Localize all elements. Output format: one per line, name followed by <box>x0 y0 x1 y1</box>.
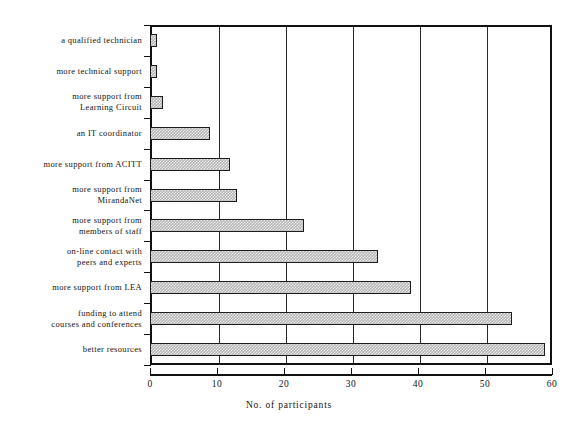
y-axis-label: more technical support <box>0 66 142 77</box>
y-axis-label-line: courses and conferences <box>0 319 142 330</box>
y-axis-labels: a qualified technicianmore technical sup… <box>0 25 146 365</box>
bar-row <box>150 120 210 146</box>
bar <box>150 281 411 294</box>
y-axis-label: more support frommembers of staff <box>0 215 142 237</box>
y-axis-tick <box>144 334 151 335</box>
x-axis-title: No. of participants <box>0 400 578 410</box>
bar-row <box>150 58 157 84</box>
bar <box>150 219 304 232</box>
y-axis-tick <box>144 241 151 242</box>
x-axis-tick <box>418 368 419 375</box>
bar <box>150 34 157 47</box>
y-axis-tick <box>144 56 151 57</box>
bar <box>150 65 157 78</box>
x-axis-tick <box>552 368 553 375</box>
y-axis-tick <box>144 149 151 150</box>
y-axis-tick <box>144 25 151 26</box>
y-axis-label: funding to attendcourses and conferences <box>0 308 142 330</box>
y-axis-label-line: more support from <box>0 184 142 195</box>
bar <box>150 189 237 202</box>
y-axis-label: more support from LEA <box>0 282 142 293</box>
bar <box>150 343 545 356</box>
bar-row <box>150 151 230 177</box>
y-axis-tick <box>144 210 151 211</box>
bar <box>150 250 378 263</box>
y-axis-tick <box>144 180 151 181</box>
y-axis-label-line: Learning Circuit <box>0 102 142 113</box>
bar <box>150 158 230 171</box>
y-axis-label: more support fromLearning Circuit <box>0 91 142 113</box>
x-axis-tick <box>217 368 218 375</box>
y-axis-label-line: more support from LEA <box>0 282 142 293</box>
y-axis-label-line: funding to attend <box>0 308 142 319</box>
y-axis-tick <box>144 303 151 304</box>
bar-chart: a qualified technicianmore technical sup… <box>0 0 578 432</box>
x-axis-tick-label: 50 <box>480 379 490 389</box>
y-axis-label: a qualified technician <box>0 35 142 46</box>
y-axis-tick <box>144 272 151 273</box>
y-axis-label-line: an IT coordinator <box>0 128 142 139</box>
bar <box>150 127 210 140</box>
y-axis-tick <box>144 365 151 366</box>
bar <box>150 96 163 109</box>
bar-row <box>150 27 157 53</box>
bar-row <box>150 182 237 208</box>
x-axis-tick-label: 40 <box>413 379 423 389</box>
x-axis-tick-label: 20 <box>279 379 289 389</box>
bar-row <box>150 275 411 301</box>
x-axis-tick-label: 30 <box>346 379 356 389</box>
x-axis-tick <box>150 368 151 375</box>
bar-row <box>150 306 512 332</box>
y-axis-label-line: better resources <box>0 344 142 355</box>
y-axis-label: more support fromMirandaNet <box>0 184 142 206</box>
y-axis-tick <box>144 118 151 119</box>
y-axis-label: better resources <box>0 344 142 355</box>
bar-row <box>150 89 163 115</box>
x-axis-tick-label: 60 <box>547 379 557 389</box>
x-axis-tick <box>485 368 486 375</box>
bar-row <box>150 213 304 239</box>
x-axis-tick <box>351 368 352 375</box>
bar-row <box>150 244 378 270</box>
y-axis-label: on-line contact withpeers and experts <box>0 246 142 268</box>
y-axis-label-line: members of staff <box>0 226 142 237</box>
y-axis-label-line: a qualified technician <box>0 35 142 46</box>
y-axis-label-line: peers and experts <box>0 257 142 268</box>
y-axis-label-line: on-line contact with <box>0 246 142 257</box>
bar-row <box>150 337 545 363</box>
y-axis-label-line: more technical support <box>0 66 142 77</box>
y-axis-label-line: MirandaNet <box>0 195 142 206</box>
bar <box>150 312 512 325</box>
y-axis-label-line: more support from <box>0 91 142 102</box>
y-axis-label-line: more support from ACITT <box>0 159 142 170</box>
x-axis-tick-label: 0 <box>147 379 152 389</box>
y-axis-label: an IT coordinator <box>0 128 142 139</box>
y-axis-label-line: more support from <box>0 215 142 226</box>
y-axis-label: more support from ACITT <box>0 159 142 170</box>
x-axis-tick-label: 10 <box>212 379 222 389</box>
x-axis-tick <box>284 368 285 375</box>
bars-container <box>150 25 552 365</box>
y-axis-tick <box>144 87 151 88</box>
